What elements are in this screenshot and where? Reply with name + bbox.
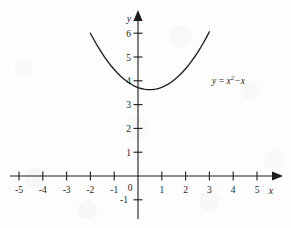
y-tick-label-6: 6	[126, 29, 131, 39]
equation-y: y	[211, 76, 217, 86]
x-tick-label-1: 1	[159, 185, 164, 195]
graph-figure: -5 -4 -3 -2 -1 1 2 3 4 5 0 -1 1 2 3 4 5 …	[0, 0, 291, 228]
y-tick-label--1: -1	[120, 195, 128, 205]
x-tick-label--4: -4	[39, 185, 47, 195]
curve-equation-label: y=x2−x	[211, 74, 246, 86]
equation-equals: =	[219, 76, 224, 86]
x-tick-label-3: 3	[207, 185, 212, 195]
y-axis-arrowhead	[133, 10, 142, 21]
x-tick-label--5: -5	[15, 185, 23, 195]
y-tick-label-3: 3	[126, 100, 131, 110]
y-tick-label-5: 5	[126, 53, 131, 63]
x-tick-label--3: -3	[63, 185, 71, 195]
x-tick-label-2: 2	[183, 185, 188, 195]
x-tick-label-5: 5	[255, 185, 260, 195]
y-tick-labels: -1 1 2 3 4 5 6	[120, 29, 131, 206]
x-axis-label: x	[268, 185, 274, 196]
parabola	[90, 32, 209, 90]
x-tick-label--1: -1	[110, 185, 118, 195]
x-axis-arrowhead	[272, 171, 283, 180]
x-tick-label--2: -2	[86, 185, 94, 195]
equation-minus: −	[235, 76, 240, 86]
x-tick-label-4: 4	[231, 185, 236, 195]
origin-label: 0	[128, 183, 133, 193]
plot-canvas: -5 -4 -3 -2 -1 1 2 3 4 5 0 -1 1 2 3 4 5 …	[0, 0, 291, 228]
y-tick-label-2: 2	[126, 124, 131, 134]
y-tick-label-1: 1	[126, 148, 131, 158]
equation-term: x	[240, 76, 246, 86]
y-axis-label: y	[126, 13, 132, 24]
x-tick-labels: -5 -4 -3 -2 -1 1 2 3 4 5	[15, 185, 260, 195]
